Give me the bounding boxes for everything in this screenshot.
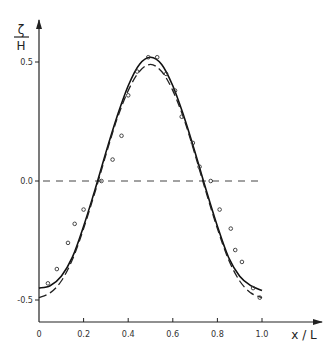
measurement-point <box>111 158 115 162</box>
solid-curve <box>39 57 262 290</box>
y-axis-title: ζ H <box>14 23 29 53</box>
x-tick-label: 1.0 <box>256 329 269 339</box>
y-tick-label: 0.0 <box>20 176 33 186</box>
measurement-point <box>66 241 70 245</box>
measurement-point <box>135 70 139 74</box>
x-tick-label: 0.6 <box>166 329 179 339</box>
measurement-point <box>209 179 213 183</box>
axis-ticks <box>35 62 262 322</box>
y-tick-label: 0.5 <box>20 57 33 67</box>
measurement-point <box>120 134 124 138</box>
y-tick-label: -0.5 <box>17 295 33 305</box>
solid-curve-path <box>39 57 262 290</box>
measurement-point <box>46 282 50 286</box>
measurement-point <box>82 208 86 212</box>
y-axis-title-numerator: ζ <box>18 23 25 37</box>
measurement-point <box>229 227 233 231</box>
x-axis-title: x / L <box>291 328 317 342</box>
measurement-point <box>126 94 130 98</box>
measurement-point <box>218 208 222 212</box>
measurement-point <box>73 222 77 226</box>
x-tick-label: 0.2 <box>77 329 90 339</box>
x-tick-label: 0.4 <box>122 329 135 339</box>
measurement-points <box>46 55 261 299</box>
x-tick-label: 0.8 <box>211 329 224 339</box>
x-tick-label: 0 <box>36 329 41 339</box>
measurement-point <box>240 260 244 264</box>
chart: ζ H 00.20.40.60.81.00.50.0-0.5 x / L <box>0 0 336 352</box>
measurement-point <box>155 55 159 59</box>
axis-tick-labels: 00.20.40.60.81.00.50.0-0.5 <box>17 57 268 339</box>
measurement-point <box>55 267 59 271</box>
measurement-point <box>233 248 237 252</box>
y-axis-title-denominator: H <box>16 39 25 53</box>
